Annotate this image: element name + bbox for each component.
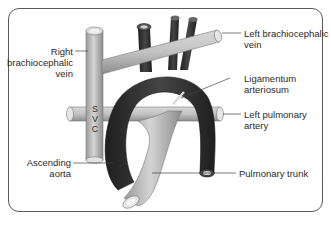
superior-vena-cava [86,27,103,163]
pulmonary-trunk [121,111,182,211]
label-ligamentum-arteriosum: Ligamentum arteriosum [244,73,296,95]
label-pulmonary-trunk: Pulmonary trunk [239,168,308,179]
label-right-brachiocephalic-vein: Right brachiocephalic vein [7,46,73,79]
label-left-pulmonary-artery: Left pulmonary artery [244,109,307,131]
svc-letter-s: S [90,104,100,114]
svc-letter-c: C [90,124,100,134]
label-left-brachiocephalic-vein: Left brachiocephalic vein [244,28,329,50]
svc-letter-v: V [90,114,100,124]
left-brachiocephalic-vein [102,29,223,74]
label-ascending-aorta: Ascending aorta [27,157,71,179]
